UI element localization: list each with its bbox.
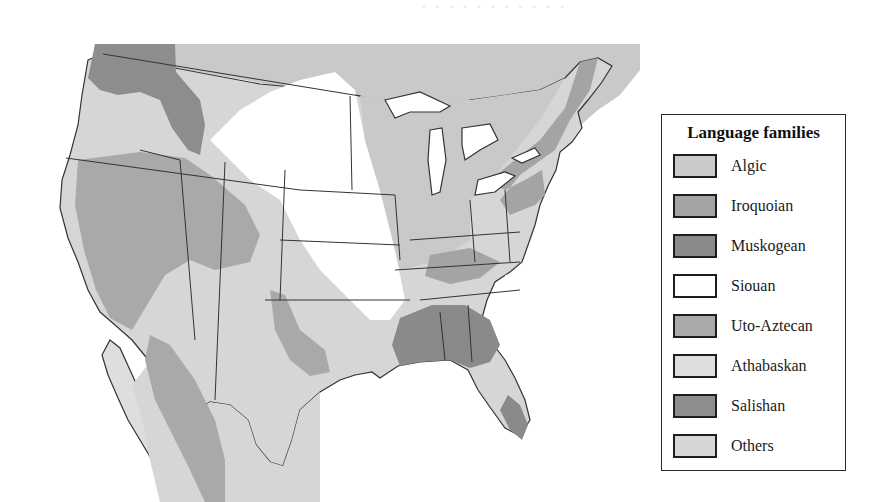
swatch-siouan <box>673 274 717 298</box>
legend: Language families Algic Iroquoian Muskog… <box>661 114 846 471</box>
swatch-others <box>673 434 717 458</box>
legend-item-others: Others <box>673 434 774 458</box>
legend-label: Muskogean <box>731 237 806 255</box>
legend-title: Language families <box>662 123 845 143</box>
legend-label: Algic <box>731 157 767 175</box>
legend-label: Siouan <box>731 277 775 295</box>
legend-label: Others <box>731 437 774 455</box>
swatch-uto-aztecan <box>673 314 717 338</box>
legend-label: Uto-Aztecan <box>731 317 813 335</box>
legend-item-algic: Algic <box>673 154 767 178</box>
swatch-muskogean <box>673 234 717 258</box>
region-siouan-carolinas <box>505 270 548 310</box>
legend-label: Athabaskan <box>731 357 807 375</box>
legend-item-muskogean: Muskogean <box>673 234 806 258</box>
legend-item-uto-aztecan: Uto-Aztecan <box>673 314 813 338</box>
legend-label: Salishan <box>731 397 785 415</box>
legend-item-salishan: Salishan <box>673 394 785 418</box>
legend-item-siouan: Siouan <box>673 274 775 298</box>
swatch-algic <box>673 154 717 178</box>
legend-item-athabaskan: Athabaskan <box>673 354 807 378</box>
legend-label: Iroquoian <box>731 197 793 215</box>
swatch-iroquoian <box>673 194 717 218</box>
legend-item-iroquoian: Iroquoian <box>673 194 793 218</box>
swatch-salishan <box>673 394 717 418</box>
swatch-athabaskan <box>673 354 717 378</box>
